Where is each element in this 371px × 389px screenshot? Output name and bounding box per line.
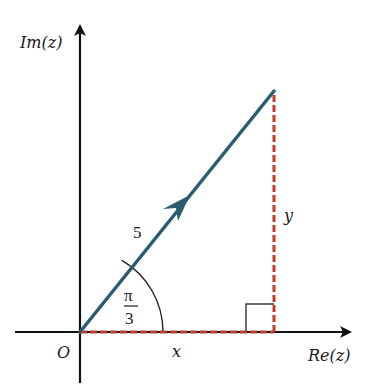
right-angle-marker (246, 304, 274, 332)
re-axis-label: Re(z) (307, 346, 350, 365)
im-axis-label: Im(z) (19, 33, 62, 52)
x-length-label: x (172, 342, 181, 361)
angle-numerator: π (124, 286, 133, 305)
y-length-label: y (283, 206, 294, 225)
angle-denominator: 3 (125, 309, 134, 328)
origin-label: O (57, 343, 70, 362)
modulus-label: 5 (133, 223, 142, 242)
vector-arrowhead-icon (163, 195, 190, 221)
argand-diagram: Im(z) Re(z) O 5 x y π 3 (0, 0, 371, 389)
